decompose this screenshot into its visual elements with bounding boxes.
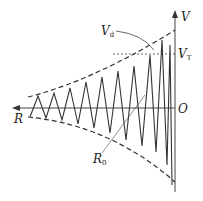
r-axis-label: R [13, 112, 23, 126]
upper-envelope [28, 30, 175, 97]
vt-label: VT [178, 47, 192, 62]
r0-label: R0 [92, 152, 107, 167]
vd-subscript: d [110, 31, 115, 39]
lower-envelope [28, 117, 175, 182]
vt-subscript: T [187, 54, 192, 62]
v-axis-label: V [181, 10, 191, 24]
r0-subscript: 0 [102, 159, 106, 167]
r0-symbol: R [92, 152, 102, 166]
diagram-canvas: V R O VT Vd R0 [0, 0, 203, 201]
vd-label: Vd [101, 24, 115, 39]
origin-label: O [178, 102, 188, 116]
vd-leader [116, 31, 154, 50]
